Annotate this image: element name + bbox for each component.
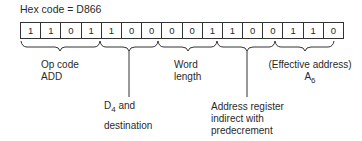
mode-line2: indirect with	[211, 113, 284, 125]
opcode-label: Op code ADD	[41, 59, 79, 83]
ea-line2: A6	[265, 71, 355, 87]
ea-line1: (Effective address)	[265, 59, 355, 71]
mode-line3: predecrement	[211, 125, 284, 137]
opcode-line1: Op code	[41, 59, 79, 71]
size-line1: Word	[174, 59, 201, 71]
register-line2: destination	[104, 120, 152, 132]
mode-line1: Address register	[211, 101, 284, 113]
register-line1: D4 and	[104, 100, 152, 116]
register-label: D4 and destination	[104, 100, 152, 132]
size-line2: length	[174, 71, 201, 83]
size-label: Word length	[174, 59, 201, 83]
opcode-line2: ADD	[41, 71, 79, 83]
ea-label: (Effective address) A6	[265, 59, 355, 87]
mode-label: Address register indirect with predecrem…	[211, 101, 284, 137]
